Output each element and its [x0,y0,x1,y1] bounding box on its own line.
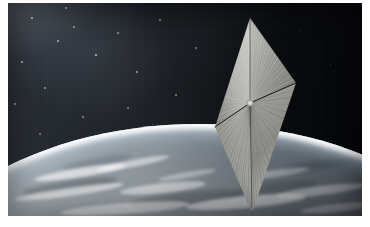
image-canvas [0,0,370,227]
solar-sail-spacecraft [8,3,362,216]
photograph [8,3,362,216]
sail-central-hub [247,100,254,107]
